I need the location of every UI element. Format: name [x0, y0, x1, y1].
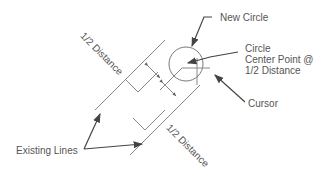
label-existing-lines: Existing Lines	[16, 145, 78, 156]
label-cursor: Cursor	[248, 98, 278, 109]
label-center-line2: Center Point @	[245, 54, 314, 65]
new-circle-arrow	[192, 17, 212, 46]
dimension-bracket-top	[126, 72, 158, 92]
dimension-bracket-bottom	[133, 110, 165, 130]
cursor-arrow	[215, 75, 245, 102]
label-center-line3: 1/2 Distance	[245, 65, 301, 76]
diagram-canvas	[0, 0, 321, 184]
label-center-line1: Circle	[245, 43, 271, 54]
center-point-arrow	[188, 52, 238, 63]
new-circle	[169, 47, 203, 81]
label-new-circle: New Circle	[220, 12, 268, 23]
existing-lines-arrow-1	[84, 114, 100, 149]
existing-lines-arrow-2	[84, 144, 142, 149]
